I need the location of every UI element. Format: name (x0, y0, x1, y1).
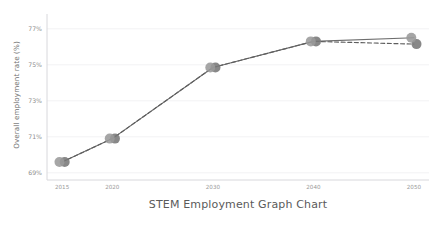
series-line-dashed-series (62, 41, 414, 162)
data-point-marker (105, 134, 115, 144)
chart-title: STEM Employment Graph Chart (47, 198, 429, 211)
data-point-marker (406, 33, 416, 43)
data-point-marker (306, 36, 316, 46)
plot-area (0, 0, 435, 226)
chart-figure: Overall employment rate (%) 69%71%73%75%… (0, 0, 435, 226)
data-point-marker (54, 157, 64, 167)
data-point-marker (205, 63, 215, 73)
